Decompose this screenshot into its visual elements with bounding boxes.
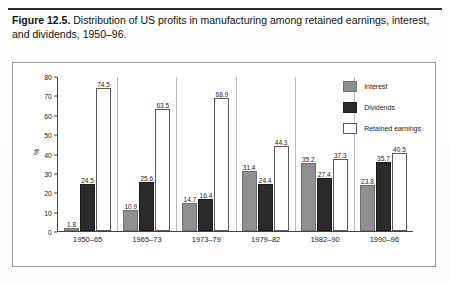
bar-interest: 31.4: [242, 171, 257, 231]
bar-value-label: 14.7: [184, 196, 197, 203]
bar-retained: 40.5: [392, 153, 407, 231]
bar-interest: 35.2: [301, 163, 316, 231]
bar-dividends: 25.6: [139, 182, 154, 231]
legend-item-retained: Retained earnings: [343, 123, 421, 134]
legend-label: Dividends: [364, 104, 395, 111]
bar-group: 14.716.468.9: [176, 77, 235, 231]
y-tick-mark: [54, 77, 57, 78]
legend-swatch-retained: [343, 123, 357, 134]
bar-value-label: 40.5: [393, 146, 406, 153]
legend-swatch-interest: [343, 81, 357, 92]
bar-value-label: 74.5: [97, 81, 110, 88]
bar-interest: 23.8: [360, 185, 375, 231]
bar-value-label: 27.4: [318, 171, 331, 178]
x-tick-label: 1973–79: [177, 235, 236, 244]
bar-value-label: 23.8: [361, 178, 374, 185]
bar-dividends: 24.5: [80, 184, 95, 231]
bar-retained: 74.5: [96, 88, 111, 231]
chart-frame: % 80706050403020100 1.824.574.510.925.66…: [12, 62, 436, 267]
figure-title: Figure 12.5. Distribution of US profits …: [12, 14, 432, 41]
bar-value-label: 37.3: [334, 152, 347, 159]
y-axis-label: %: [33, 149, 40, 155]
y-tick-mark: [54, 232, 57, 233]
y-tick-mark: [54, 173, 57, 174]
figure-number: Figure 12.5.: [12, 14, 70, 26]
figure-page: Figure 12.5. Distribution of US profits …: [0, 0, 450, 283]
bar-dividends: 16.4: [198, 199, 213, 231]
bar-retained: 44.3: [274, 146, 289, 231]
bar-dividends: 27.4: [317, 178, 332, 231]
y-tick-mark: [54, 115, 57, 116]
bar-value-label: 24.5: [81, 177, 94, 184]
x-tick-label: 1982–90: [295, 235, 354, 244]
figure-caption: Distribution of US profits in manufactur…: [12, 14, 429, 40]
bar-value-label: 25.6: [140, 175, 153, 182]
bar-retained: 63.5: [155, 109, 170, 231]
bar-value-label: 35.7: [377, 155, 390, 162]
bar-value-label: 31.4: [243, 164, 256, 171]
bar-retained: 37.3: [333, 159, 348, 231]
y-tick-mark: [54, 193, 57, 194]
x-axis-line: [57, 231, 413, 232]
chart-legend: InterestDividendsRetained earnings: [343, 81, 421, 134]
bar-dividends: 35.7: [376, 162, 391, 231]
y-tick-mark: [54, 96, 57, 97]
legend-item-interest: Interest: [343, 81, 421, 92]
bar-group: 31.424.444.3: [236, 77, 295, 231]
title-rule: [8, 8, 442, 10]
x-tick-label: 1990–96: [355, 235, 414, 244]
y-tick-mark: [54, 212, 57, 213]
legend-item-dividends: Dividends: [343, 102, 421, 113]
x-tick-label: 1979–82: [236, 235, 295, 244]
x-tick-label: 1965–73: [117, 235, 176, 244]
bar-interest: 14.7: [182, 203, 197, 231]
bar-group: 10.925.663.5: [117, 77, 176, 231]
bar-value-label: 68.9: [216, 91, 229, 98]
bar-group: 1.824.574.5: [58, 77, 117, 231]
legend-swatch-dividends: [343, 102, 357, 113]
legend-label: Interest: [364, 83, 387, 90]
bar-value-label: 16.4: [200, 192, 213, 199]
bar-value-label: 44.3: [275, 139, 288, 146]
legend-label: Retained earnings: [364, 125, 421, 132]
x-tick-label: 1950–65: [58, 235, 117, 244]
bar-interest: 10.9: [123, 210, 138, 231]
y-tick-mark: [54, 154, 57, 155]
bar-value-label: 1.8: [67, 221, 76, 228]
bar-value-label: 24.4: [259, 177, 272, 184]
bar-dividends: 24.4: [258, 184, 273, 231]
bar-retained: 68.9: [214, 98, 229, 231]
bar-value-label: 10.9: [124, 203, 137, 210]
x-axis-labels: 1950–651965–731973–791979–821982–901990–…: [58, 235, 414, 244]
y-tick-mark: [54, 135, 57, 136]
bar-value-label: 35.2: [302, 156, 315, 163]
bar-value-label: 63.5: [156, 102, 169, 109]
bar-interest: 1.8: [64, 228, 79, 231]
